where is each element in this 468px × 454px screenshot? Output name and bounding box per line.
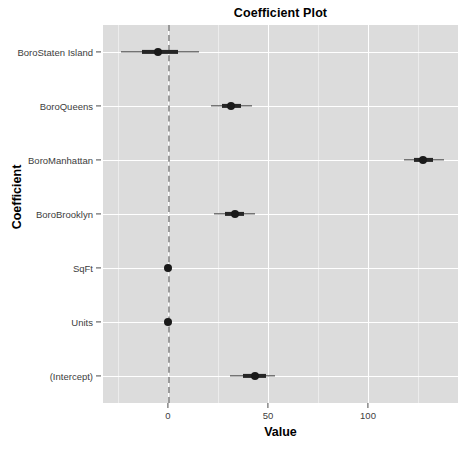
- y-axis-tick-label: BoroManhattan: [28, 155, 93, 166]
- major-gridline-horizontal: [103, 376, 458, 377]
- estimate-point: [419, 156, 427, 164]
- estimate-point: [164, 264, 172, 272]
- y-axis-tick-label: BoroBrooklyn: [36, 209, 93, 220]
- x-axis-tick-label: 0: [165, 410, 170, 421]
- y-axis-tick-mark: [96, 105, 101, 106]
- plot-panel: [103, 25, 458, 403]
- y-axis-tick-mark: [96, 267, 101, 268]
- y-axis-tick-label: BoroQueens: [40, 101, 93, 112]
- major-gridline-horizontal: [103, 106, 458, 107]
- chart-title: Coefficient Plot: [103, 6, 458, 20]
- major-gridline-horizontal: [103, 322, 458, 323]
- major-gridline-horizontal: [103, 268, 458, 269]
- estimate-point: [227, 102, 235, 110]
- y-axis-tick-label: BoroStaten Island: [17, 47, 93, 58]
- x-axis-tick-mark: [367, 403, 368, 408]
- y-axis-tick-mark: [96, 159, 101, 160]
- y-axis-tick-mark: [96, 321, 101, 322]
- zero-reference-line: [168, 25, 170, 403]
- y-axis-tick-mark: [96, 375, 101, 376]
- y-axis-tick-mark: [96, 51, 101, 52]
- x-axis-tick-label: 100: [360, 410, 376, 421]
- major-gridline-horizontal: [103, 214, 458, 215]
- coefficient-plot: Coefficient Plot BoroStaten IslandBoroQu…: [0, 0, 468, 454]
- x-axis-tick-mark: [267, 403, 268, 408]
- estimate-point: [154, 48, 162, 56]
- x-axis-tick-label: 50: [263, 410, 274, 421]
- estimate-point: [164, 318, 172, 326]
- y-axis-title: Coefficient: [10, 149, 24, 245]
- y-axis-tick-label: (Intercept): [50, 371, 93, 382]
- x-axis-tick-mark: [167, 403, 168, 408]
- y-axis-tick-mark: [96, 213, 101, 214]
- x-axis-title: Value: [103, 425, 458, 439]
- y-axis-tick-label: SqFt: [73, 263, 93, 274]
- y-axis-tick-label: Units: [71, 317, 93, 328]
- estimate-point: [231, 210, 239, 218]
- estimate-point: [251, 372, 259, 380]
